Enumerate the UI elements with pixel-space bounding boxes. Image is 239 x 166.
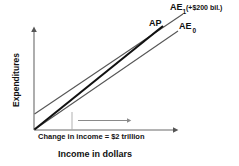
series-label-ap: AP [149, 19, 162, 28]
chart-canvas [0, 0, 239, 166]
series-line-ap [35, 26, 164, 130]
y-axis-title: Expenditures [11, 40, 21, 120]
series-label-ae1-text: AE [170, 2, 183, 12]
series-label-ae1: AE1 [170, 3, 186, 14]
series-label-ae1-note: (+$200 bil.) [186, 4, 222, 11]
series-label-ae0-subscript: 0 [193, 27, 197, 34]
change-in-income-label: Change in income = $2 trillion [38, 133, 144, 141]
series-label-ae0: AE0 [179, 22, 196, 33]
x-axis-title: Income in dollars [58, 150, 132, 159]
series-line-ae0 [35, 31, 179, 130]
series-label-ae0-text: AE [179, 21, 192, 31]
chart-container: AE1 (+$200 bil.) AP AE0 Expenditures Cha… [0, 0, 239, 166]
